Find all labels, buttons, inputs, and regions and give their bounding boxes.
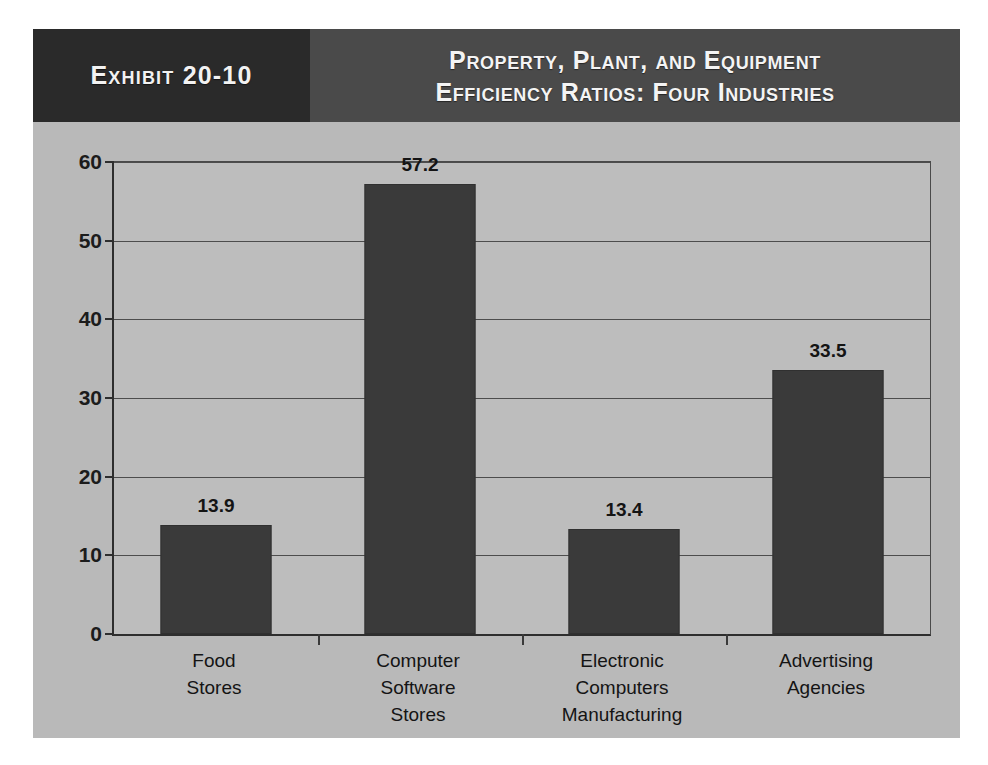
category-label-line: Computers [520,675,724,702]
exhibit-title-line-2: Efficiency Ratios: Four Industries [435,76,834,108]
y-tick-mark-10 [105,554,114,556]
category-label-line: Computer [316,648,520,675]
category-label: AdvertisingAgencies [724,648,928,702]
y-tick-mark-50 [105,240,114,242]
bar-series: 13.957.213.433.5 [114,162,930,634]
y-tick-label-10: 10 [79,543,102,567]
bar [161,525,272,634]
y-tick-label-20: 20 [79,465,102,489]
exhibit-number-label: Exhibit 20-10 [33,29,310,122]
exhibit-title-line-1: Property, Plant, and Equipment [449,44,821,76]
category-label-line: Stores [112,675,316,702]
y-tick-mark-0 [105,633,114,635]
category-label-line: Advertising [724,648,928,675]
bar [569,529,680,634]
y-tick-mark-30 [105,397,114,399]
category-label: ElectronicComputersManufacturing [520,648,724,729]
bar-value-label: 33.5 [810,340,847,362]
y-tick-label-50: 50 [79,229,102,253]
x-axis-tick [318,634,320,645]
y-tick-mark-60 [105,161,114,163]
x-axis-tick [522,634,524,645]
bar-value-label: 13.9 [198,495,235,517]
x-axis-category-labels: FoodStoresComputerSoftwareStoresElectron… [112,648,928,738]
bar [773,370,884,634]
y-tick-label-60: 60 [79,150,102,174]
bar-group: 13.9 [114,162,318,634]
y-tick-mark-20 [105,476,114,478]
exhibit-panel: Exhibit 20-10 Property, Plant, and Equip… [33,29,960,738]
bar-value-label: 13.4 [606,499,643,521]
bar-group: 13.4 [522,162,726,634]
category-label-line: Stores [316,702,520,729]
y-tick-label-30: 30 [79,386,102,410]
category-label-line: Electronic [520,648,724,675]
bar-value-label: 57.2 [402,154,439,176]
y-tick-label-0: 0 [90,622,102,646]
y-tick-mark-40 [105,318,114,320]
category-label: FoodStores [112,648,316,702]
exhibit-header: Exhibit 20-10 Property, Plant, and Equip… [33,29,960,122]
category-label: ComputerSoftwareStores [316,648,520,729]
category-label-line: Food [112,648,316,675]
category-label-line: Agencies [724,675,928,702]
category-label-line: Manufacturing [520,702,724,729]
bar-group: 33.5 [726,162,930,634]
plot-area: 0102030405060 13.957.213.433.5 [112,161,931,636]
x-axis-tick [726,634,728,645]
category-label-line: Software [316,675,520,702]
exhibit-title: Property, Plant, and Equipment Efficienc… [310,29,960,122]
chart-body: 0102030405060 13.957.213.433.5 FoodStore… [33,122,960,738]
y-tick-label-40: 40 [79,307,102,331]
bar [365,184,476,634]
bar-group: 57.2 [318,162,522,634]
